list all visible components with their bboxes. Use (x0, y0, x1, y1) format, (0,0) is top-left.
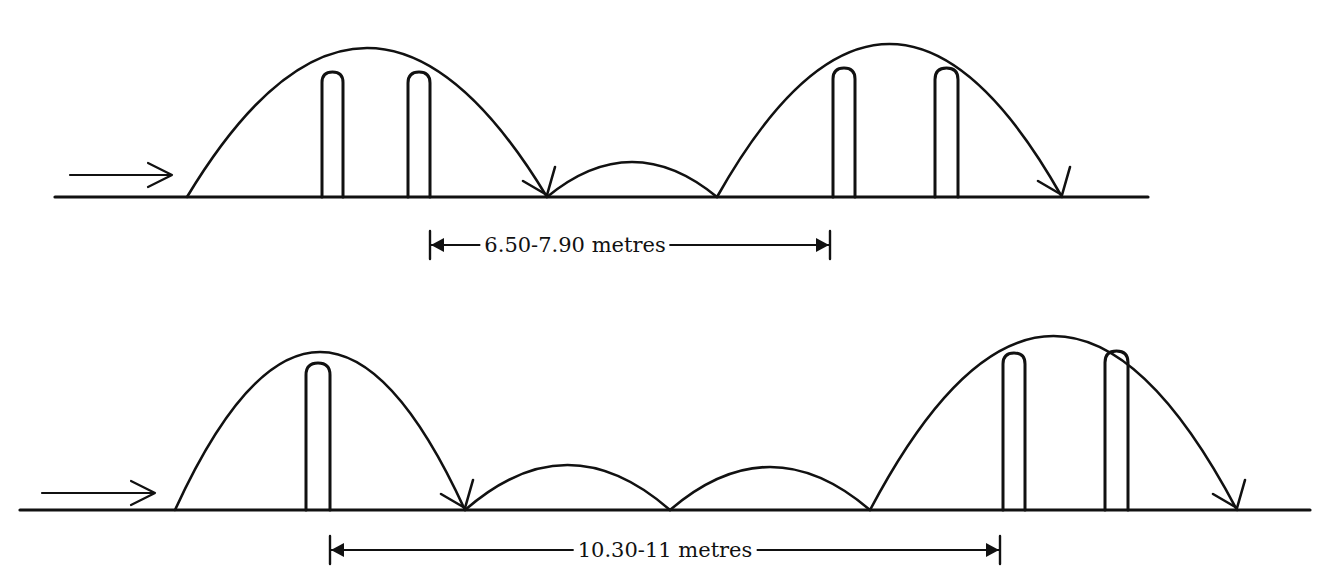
bottom-diagram (20, 336, 1310, 564)
bottom-dimension-label: 10.30-11 metres (574, 537, 757, 563)
top-dimension-label: 6.50-7.90 metres (480, 232, 669, 258)
stride-arc (870, 336, 1237, 510)
hurdle-stride-diagram (0, 0, 1319, 588)
top-diagram (55, 44, 1148, 259)
hurdle-icon (1003, 353, 1025, 510)
stride-arc (717, 44, 1062, 197)
dimension-arrowhead-left-icon (331, 543, 344, 557)
hurdle-icon (935, 68, 958, 197)
stride-arc (175, 352, 465, 510)
hurdle-icon (408, 72, 430, 197)
hurdle-icon (322, 72, 343, 197)
run-direction-arrow-icon (42, 481, 155, 505)
stride-arc (547, 162, 717, 197)
hurdle-icon (306, 363, 330, 510)
landing-arrowhead-icon (523, 167, 555, 195)
hurdle-icon (1105, 351, 1128, 510)
dimension-arrowhead-right-icon (816, 238, 829, 252)
dimension-arrowhead-right-icon (986, 543, 999, 557)
stride-arc (187, 48, 547, 197)
stride-arc (465, 465, 670, 510)
hurdle-icon (833, 68, 855, 197)
dimension-arrowhead-left-icon (431, 238, 444, 252)
stride-arc (670, 467, 870, 510)
run-direction-arrow-icon (70, 163, 172, 187)
